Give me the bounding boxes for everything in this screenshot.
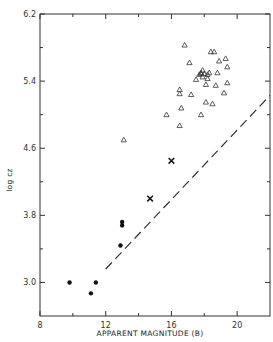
dashed-limit-line xyxy=(106,95,270,269)
filled-circle-marker xyxy=(118,243,122,247)
triangle-marker xyxy=(121,137,126,142)
data-points xyxy=(67,42,270,295)
filled-circle-marker xyxy=(67,280,71,284)
filled-circle-marker xyxy=(94,280,98,284)
y-axis-label: log cz xyxy=(5,168,14,192)
x-axis-label: APPARENT MAGNITUDE (B) xyxy=(96,329,203,338)
plot-border xyxy=(40,14,270,316)
filled-circle-marker xyxy=(89,291,93,295)
triangle-marker xyxy=(164,112,169,117)
filled-circle-marker xyxy=(120,220,124,224)
triangle-marker xyxy=(210,101,215,106)
cross-marker xyxy=(147,196,153,202)
plot-frame xyxy=(40,14,270,316)
cross-marker xyxy=(169,158,175,164)
x-tick-label: 8 xyxy=(37,321,42,330)
triangle-marker xyxy=(225,80,230,85)
y-tick-label: 6.2 xyxy=(23,10,36,19)
y-tick-label: 4.6 xyxy=(23,144,36,153)
triangle-marker xyxy=(215,70,220,75)
y-tick-label: 3.8 xyxy=(23,211,36,220)
axis-ticks: 81216203.03.84.65.46.2 xyxy=(23,10,270,330)
triangle-marker xyxy=(198,112,203,117)
triangle-marker xyxy=(203,82,208,87)
y-tick-label: 3.0 xyxy=(23,278,36,287)
triangle-marker xyxy=(225,64,230,69)
triangle-marker xyxy=(223,56,228,61)
triangle-marker xyxy=(216,58,221,63)
triangle-marker xyxy=(213,83,218,88)
triangle-marker xyxy=(182,42,187,47)
y-tick-label: 5.4 xyxy=(23,77,36,86)
triangle-marker xyxy=(203,99,208,104)
triangle-marker xyxy=(189,92,194,97)
triangle-marker xyxy=(179,105,184,110)
triangle-marker xyxy=(187,60,192,65)
triangle-marker xyxy=(177,123,182,128)
scatter-chart: 81216203.03.84.65.46.2 APPARENT MAGNITUD… xyxy=(0,0,273,342)
x-tick-label: 20 xyxy=(232,321,242,330)
triangle-marker xyxy=(221,90,226,95)
triangle-marker xyxy=(193,77,198,82)
